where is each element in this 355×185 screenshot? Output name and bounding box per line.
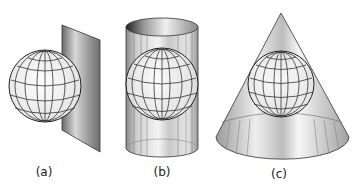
globe-a — [9, 50, 81, 122]
panel-a-planar: (a) — [9, 25, 100, 179]
panel-label-a: (a) — [36, 165, 53, 179]
panel-b-cylindrical: (b) — [126, 18, 198, 179]
globe-c — [248, 51, 314, 117]
panel-label-c: (c) — [271, 167, 287, 181]
cylinder-top-rim — [126, 18, 198, 36]
panel-c-conic: (c) — [216, 13, 349, 181]
panel-label-b: (b) — [154, 165, 171, 179]
projection-surfaces-diagram: (a) (b) — [0, 0, 355, 185]
globe-b — [126, 48, 198, 120]
